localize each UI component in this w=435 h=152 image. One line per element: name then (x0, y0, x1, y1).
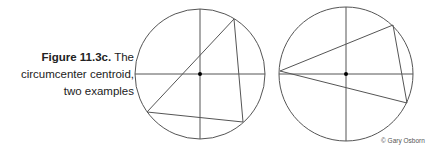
triangle (147, 19, 243, 122)
copyright-credit: © Gary Osborn (381, 137, 425, 144)
diagram-example-1 (135, 9, 265, 139)
diagram-canvas (0, 0, 435, 152)
center-point (344, 72, 348, 76)
center-point (198, 72, 202, 76)
triangle (280, 25, 407, 103)
diagram-example-2 (279, 7, 413, 141)
